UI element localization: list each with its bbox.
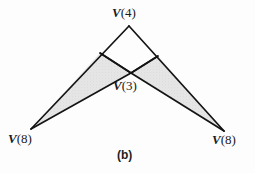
- right-shaded-triangle: [131, 56, 224, 131]
- vertex-label-bottom-right-value: (8): [221, 132, 236, 147]
- vertex-label-center-value: (3): [122, 78, 137, 93]
- vertex-label-bottom-left-prefix: V: [8, 131, 17, 146]
- figure-caption: (b): [117, 148, 132, 162]
- vertex-label-bottom-right-prefix: V: [212, 132, 221, 147]
- vertex-label-bottom-left: V(8): [8, 132, 32, 146]
- vertex-label-apex-value: (4): [121, 5, 136, 20]
- vertex-label-center: V(3): [113, 79, 137, 93]
- vertex-label-apex-prefix: V: [112, 5, 121, 20]
- vertex-label-bottom-left-value: (8): [17, 131, 32, 146]
- vertex-label-bottom-right: V(8): [212, 133, 236, 147]
- vertex-label-apex: V(4): [112, 6, 136, 20]
- vertex-label-center-prefix: V: [113, 78, 122, 93]
- figure-container: V(4) V(3) V(8) V(8) (b): [0, 0, 255, 173]
